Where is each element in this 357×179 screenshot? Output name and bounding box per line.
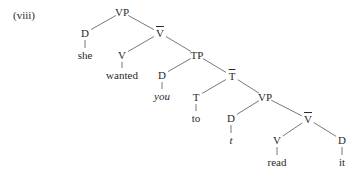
tree-branch: [203, 59, 226, 73]
tree-branch: [168, 58, 191, 71]
tree-leaf-word: t: [229, 134, 232, 146]
tree-node-label: TP: [191, 49, 204, 61]
tree-node-label: VP: [258, 91, 272, 103]
tree-leaf-word: you: [154, 90, 170, 102]
tree-branch: [166, 37, 191, 52]
tree-leaf-word: to: [192, 112, 201, 124]
tree-leaf-word: read: [268, 156, 287, 168]
tree-leaf-word: she: [78, 49, 93, 61]
tree-node-label: V: [118, 49, 126, 61]
tree-node-label: D: [338, 134, 346, 146]
tree-branch: [91, 15, 116, 29]
tree-node-label: V: [156, 27, 164, 39]
tree-node-label: D: [158, 69, 166, 81]
tree-leaf-word: it: [339, 156, 345, 168]
tree-node-label: V: [273, 134, 281, 146]
tree-branch: [128, 15, 154, 29]
tree-branch: [283, 123, 302, 136]
tree-node-label: V: [304, 113, 312, 125]
tree-branch: [128, 37, 154, 52]
tree-branch: [314, 123, 336, 137]
tree-node-label: VP: [115, 6, 129, 18]
tree-node-label: T: [193, 91, 200, 103]
tree-node-label: T: [229, 70, 236, 82]
tree-node-label: D: [81, 27, 89, 39]
tree-leaf-word: wanted: [106, 69, 138, 81]
tree-branch: [202, 80, 226, 94]
tree-node-label: D: [227, 112, 235, 124]
tree-branch: [238, 80, 259, 93]
tree-edges: [0, 0, 357, 179]
tree-branch: [271, 100, 302, 116]
tree-branch: [237, 101, 259, 115]
